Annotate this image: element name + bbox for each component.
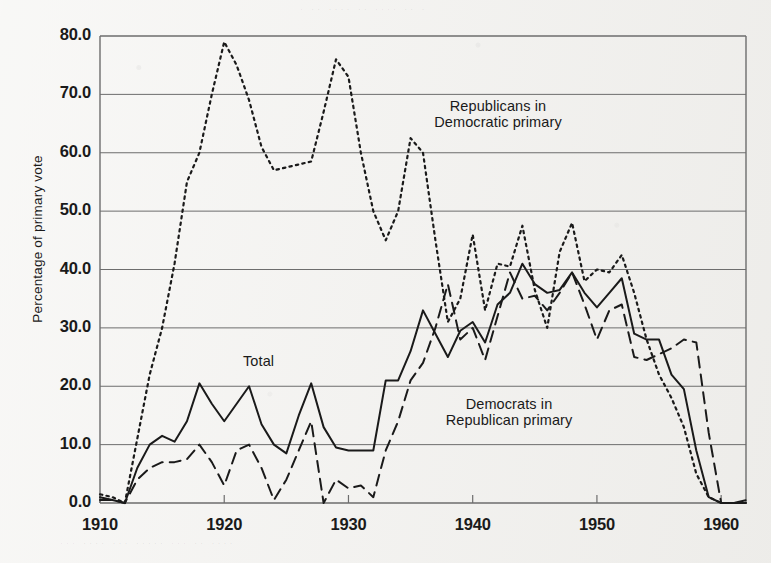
y-tick-label: 60.0 [60,142,91,161]
y-tick-label: 0.0 [69,492,91,511]
y-tick-label: 80.0 [60,25,91,44]
annotation-democrats-line1: Democrats in [404,396,614,412]
x-tick-label: 1950 [569,515,625,534]
annotation-democrats-in-republican-primary: Democrats in Republican primary [404,396,614,428]
figure-container: Percentage of primary vote 0.010.020.030… [0,0,771,563]
annotation-total: Total [243,353,274,369]
primary-crossover-line-chart [0,0,771,563]
x-tick-label: 1920 [196,515,252,534]
x-tick-label: 1910 [72,515,128,534]
y-tick-label: 20.0 [60,375,91,394]
annotation-democrats-line2: Republican primary [404,412,614,428]
y-tick-label: 40.0 [60,259,91,278]
x-tick-label: 1930 [320,515,376,534]
x-tick-label: 1940 [445,515,501,534]
series-solid [100,264,746,503]
annotation-republicans-line1: Republicans in [398,98,598,114]
y-tick-label: 10.0 [60,434,91,453]
y-axis-title: Percentage of primary vote [28,144,46,334]
y-tick-label: 50.0 [60,200,91,219]
x-tick-label: 1960 [693,515,749,534]
y-tick-label: 30.0 [60,317,91,336]
x-axis-ticks [100,495,721,503]
y-tick-label: 70.0 [60,83,91,102]
annotation-republicans-line2: Democratic primary [398,114,598,130]
annotation-republicans-in-democratic-primary: Republicans in Democratic primary [398,98,598,130]
